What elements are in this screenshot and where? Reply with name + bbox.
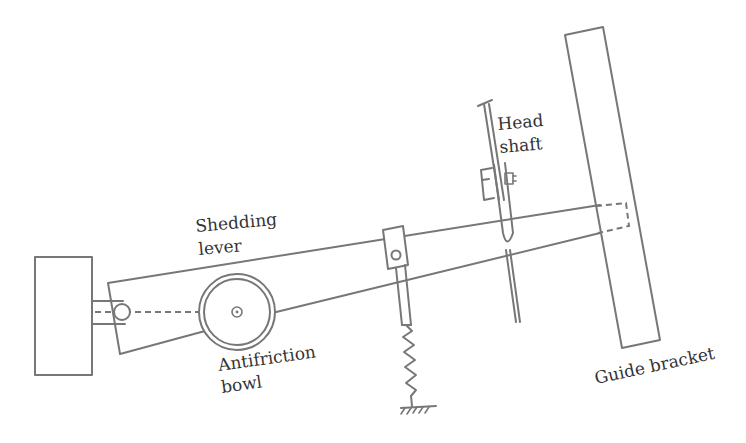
head-shaft-label-line2: shaft [499,133,544,157]
ground-anchor-icon [401,406,436,414]
pivot-pin-icon [114,304,130,320]
guide-bracket [565,27,660,348]
head-shaft-label-line1: Head [497,110,545,134]
label-shedding-lever: Shedding lever [195,209,278,259]
label-head-shaft: Head shaft [497,110,545,157]
antifriction-bowl [199,274,275,350]
shedding-lever-label-line2: lever [198,235,244,259]
shedding-lever-label-line1: Shedding [195,209,278,236]
return-spring [403,325,416,406]
spring-link [383,226,411,325]
antifriction-bowl-label-line2: bowl [220,371,263,397]
shedding-lever [108,205,600,354]
label-guide-bracket: Guide bracket [593,343,717,388]
fulcrum-block [35,257,92,375]
guide-bracket-label: Guide bracket [593,343,717,388]
diagram-canvas: Shedding lever Head shaft Antifriction b… [0,0,746,443]
